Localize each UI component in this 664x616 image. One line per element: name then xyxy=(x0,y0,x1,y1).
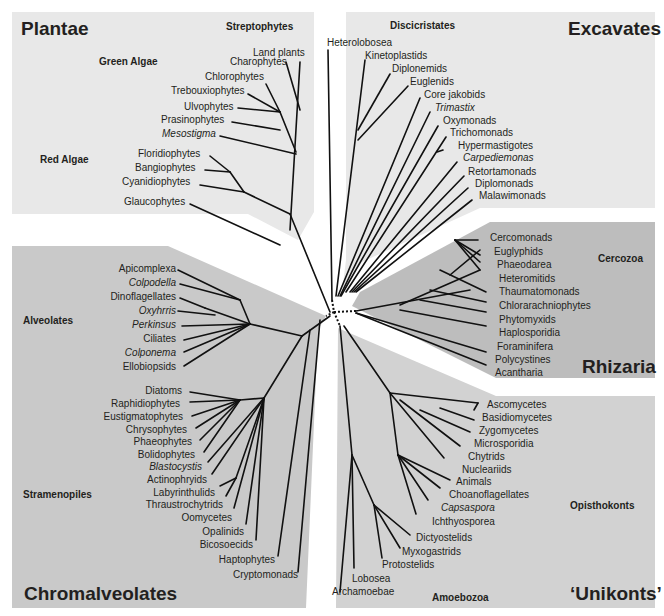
clade-label-red-algae: Red Algae xyxy=(40,154,89,165)
taxon-label: Hypermastigotes xyxy=(458,140,533,151)
clade-label-amoebozoa: Amoebozoa xyxy=(432,592,489,603)
taxon-label: Blastocystis xyxy=(149,461,202,472)
clade-label-opisthokonts: Opisthokonts xyxy=(570,500,634,511)
taxon-label: Labyrinthulids xyxy=(153,487,215,498)
taxon-label: Bangiophytes xyxy=(135,162,196,173)
taxon-label: Zygomycetes xyxy=(479,425,538,436)
taxon-label: Lobosea xyxy=(352,573,390,584)
taxon-label: Euglenids xyxy=(410,76,454,87)
clade-label-green-algae: Green Algae xyxy=(99,56,158,67)
group-title-chromalveolates: Chromalveolates xyxy=(24,583,177,605)
taxon-label: Phaeodarea xyxy=(497,259,552,270)
group-title-plantae: Plantae xyxy=(21,18,89,40)
taxon-label: Trimastix xyxy=(435,102,475,113)
taxon-label: Oxyhrris xyxy=(139,305,176,316)
taxon-label: Trebouxiophytes xyxy=(171,85,245,96)
group-title-excavates: Excavates xyxy=(568,18,661,40)
taxon-label: Thraustrochytrids xyxy=(146,499,223,510)
taxon-label: Acantharia xyxy=(495,367,543,378)
taxon-label: Colpodella xyxy=(129,277,176,288)
taxon-label: Diatoms xyxy=(145,385,182,396)
taxon-label: Dinoflagellates xyxy=(110,291,176,302)
taxon-label: Chlorarachniophytes xyxy=(499,300,591,311)
clade-label-discicristates: Discicristates xyxy=(390,20,455,31)
taxon-label: Basidiomycetes xyxy=(482,412,552,423)
taxon-label: Haptophytes xyxy=(219,554,275,565)
group-title-rhizaria: Rhizaria xyxy=(582,356,656,378)
taxon-label: Bicosoecids xyxy=(200,539,253,550)
taxon-label: Ascomycetes xyxy=(487,399,546,410)
taxon-label: Choanoflagellates xyxy=(449,489,529,500)
taxon-label: Carpediemonas xyxy=(463,152,534,163)
taxon-label: Glaucophytes xyxy=(124,196,185,207)
taxon-label: Colponema xyxy=(125,347,176,358)
taxon-label: Apicomplexa xyxy=(119,263,176,274)
taxon-label: Polycystines xyxy=(495,354,551,365)
taxon-label: Myxogastrids xyxy=(402,546,461,557)
taxon-label: Core jakobids xyxy=(424,89,485,100)
taxon-label: Archamoebae xyxy=(332,586,394,597)
group-title-unikonts: ‘Unikonts’ xyxy=(570,583,662,605)
taxon-label: Animals xyxy=(456,476,492,487)
taxon-label: Mesostigma xyxy=(162,128,216,139)
taxon-label: Ulvophytes xyxy=(184,101,233,112)
taxon-label: Chlorophytes xyxy=(205,71,264,82)
taxon-label: Malawimonads xyxy=(479,190,546,201)
taxon-label: Chytrids xyxy=(468,451,505,462)
taxon-label: Haplosporidia xyxy=(499,327,560,338)
taxon-label: Diplomonads xyxy=(475,178,533,189)
taxon-label: Capsaspora xyxy=(441,502,495,513)
taxon-label: Trichomonads xyxy=(450,127,513,138)
taxon-label: Phytomyxids xyxy=(499,314,556,325)
taxon-label: Cercomonads xyxy=(490,232,552,243)
taxon-label: Nucleariids xyxy=(462,464,511,475)
taxon-label: Opalinids xyxy=(202,526,244,537)
taxon-label: Eustigmatophytes xyxy=(104,411,184,422)
taxon-label: Raphidiophytes xyxy=(111,398,180,409)
taxon-label: Bolidophytes xyxy=(138,449,195,460)
taxon-label: Actinophryids xyxy=(147,474,207,485)
taxon-label: Floridiophytes xyxy=(138,148,200,159)
taxon-label: Charophytes xyxy=(230,56,287,67)
taxon-label: Chrysophytes xyxy=(126,424,187,435)
taxon-label: Thaumatomonads xyxy=(499,286,580,297)
taxon-label: Foraminifera xyxy=(497,341,553,352)
taxon-label: Kinetoplastids xyxy=(365,50,427,61)
taxon-label: Oxymonads xyxy=(443,115,496,126)
taxon-label: Heterolobosea xyxy=(327,37,392,48)
taxon-label: Ciliates xyxy=(143,333,176,344)
taxon-label: Dictyostelids xyxy=(416,532,472,543)
taxon-label: Perkinsus xyxy=(132,319,176,330)
taxon-label: Prasinophytes xyxy=(161,114,224,125)
taxon-label: Heteromitids xyxy=(499,273,555,284)
taxon-label: Retortamonads xyxy=(468,166,536,177)
taxon-label: Ichthyosporea xyxy=(432,516,495,527)
taxon-label: Oomycetes xyxy=(181,512,232,523)
taxon-label: Cyanidiophytes xyxy=(122,176,190,187)
taxon-label: Phaeophytes xyxy=(134,436,192,447)
clade-label-stramenopiles: Stramenopiles xyxy=(23,489,92,500)
taxon-label: Protostelids xyxy=(382,559,434,570)
taxon-label: Microsporidia xyxy=(474,438,533,449)
taxon-label: Euglyphids xyxy=(494,246,543,257)
taxon-label: Diplonemids xyxy=(392,63,447,74)
clade-label-alveolates: Alveolates xyxy=(23,315,73,326)
taxon-label: Cryptomonads xyxy=(233,569,298,580)
taxon-label: Ellobiopsids xyxy=(123,361,176,372)
clade-label-cercozoa: Cercozoa xyxy=(598,253,643,264)
clade-label-streptophytes: Streptophytes xyxy=(226,21,293,32)
